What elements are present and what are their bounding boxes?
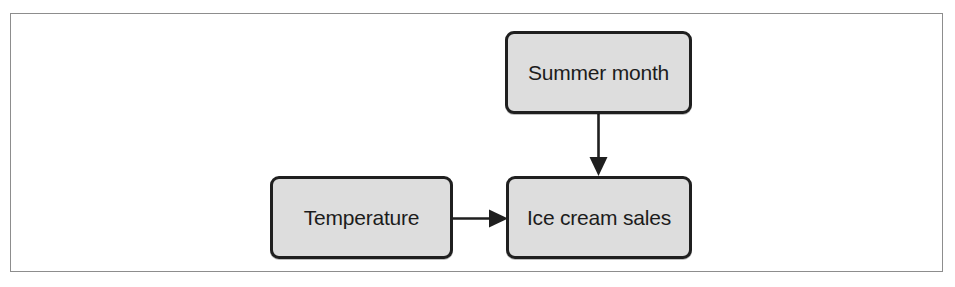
- node-ice-cream-sales[interactable]: Ice cream sales: [506, 176, 692, 259]
- node-summer-month-label: Summer month: [528, 62, 669, 83]
- arrowhead-down-icon: [590, 157, 608, 176]
- diagram-canvas: Summer month Temperature Ice cream sales: [0, 0, 955, 287]
- node-temperature[interactable]: Temperature: [270, 176, 453, 259]
- edge-layer: [0, 0, 955, 287]
- node-temperature-label: Temperature: [304, 207, 420, 228]
- edge-summer-month-to-ice-cream-sales: [590, 114, 608, 176]
- edge-temperature-to-ice-cream-sales: [452, 210, 508, 228]
- screenshot-root: Summer month Temperature Ice cream sales: [0, 0, 955, 287]
- node-ice-cream-sales-label: Ice cream sales: [527, 207, 671, 228]
- node-summer-month[interactable]: Summer month: [505, 31, 692, 114]
